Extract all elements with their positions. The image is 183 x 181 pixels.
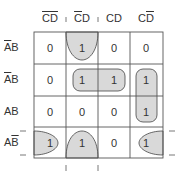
cell-r4-c2: 1 (66, 127, 98, 158)
column-label-c-d: CD (98, 12, 130, 24)
cell-r3-c4: 1 (130, 96, 162, 127)
cell-r3-c2: 0 (66, 96, 98, 127)
cell-r2-c2: 1 (66, 64, 98, 95)
cell-r3-c1: 0 (34, 96, 66, 127)
karnaugh-map: CD CD CD CD AB AB AB AB 0 1 0 0 0 1 1 1 … (0, 0, 183, 181)
cell-r4-c4: 1 (130, 127, 162, 158)
cell-r1-c1: 0 (34, 32, 66, 63)
cell-r2-c4: 1 (130, 64, 162, 95)
cell-r3-c3: 0 (98, 96, 130, 127)
column-label-c-bar-d-bar: CD (34, 12, 66, 24)
cell-r4-c1: 1 (34, 127, 66, 158)
row-label-a-b: AB (4, 105, 32, 117)
cell-r1-c4: 0 (130, 32, 162, 63)
row-label-a-b-bar: AB (4, 136, 32, 148)
cell-r1-c3: 0 (98, 32, 130, 63)
row-label-a-bar-b: AB (4, 73, 32, 85)
cell-r1-c2: 1 (66, 32, 98, 63)
column-label-c-bar-d: CD (66, 12, 98, 24)
cell-r4-c3: 0 (98, 127, 130, 158)
column-label-c-d-bar: CD (130, 12, 162, 24)
cell-r2-c1: 0 (34, 64, 66, 95)
row-label-a-bar-b-bar: AB (4, 41, 32, 53)
cell-r2-c3: 1 (98, 64, 130, 95)
